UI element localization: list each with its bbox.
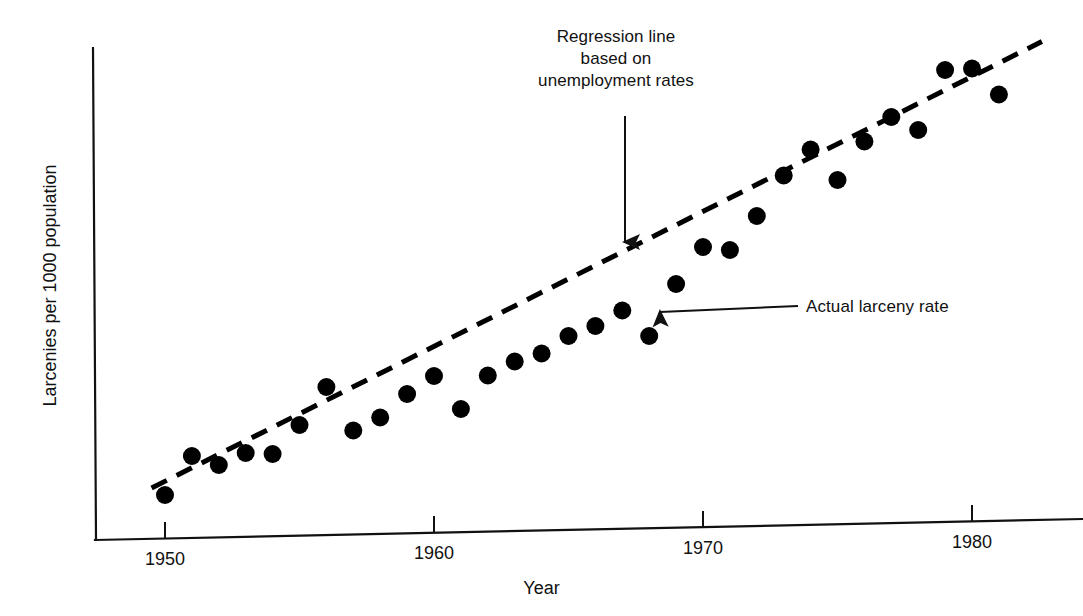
data-point: [694, 238, 712, 256]
x-tick-label-1960: 1960: [399, 543, 469, 564]
actual-larceny-annotation: Actual larceny rate: [806, 296, 949, 318]
x-axis-ticks: [165, 505, 972, 538]
data-point: [479, 367, 497, 385]
data-point: [936, 61, 954, 79]
data-point: [560, 327, 578, 345]
data-point: [398, 385, 416, 403]
data-point: [237, 444, 255, 462]
data-point: [533, 345, 551, 363]
data-point: [721, 241, 739, 259]
data-point: [882, 108, 900, 126]
data-point: [990, 86, 1008, 104]
data-point: [775, 167, 793, 185]
data-point: [425, 367, 443, 385]
data-point: [855, 133, 873, 151]
data-point: [156, 486, 174, 504]
x-tick-label-1950: 1950: [130, 549, 200, 570]
x-tick-label-1980: 1980: [937, 532, 1007, 553]
data-point: [183, 447, 201, 465]
regression-line: [152, 42, 1042, 489]
actual-annotation-arrow: [660, 306, 798, 312]
data-point: [613, 302, 631, 320]
chart-figure: Regression line based on unemployment ra…: [0, 0, 1083, 616]
regression-annotation-line-1: Regression line: [494, 26, 738, 48]
data-point: [344, 422, 362, 440]
data-point: [909, 121, 927, 139]
data-point: [829, 171, 847, 189]
data-point: [748, 207, 766, 225]
data-point: [210, 456, 228, 474]
y-axis-title: Larcenies per 1000 population: [40, 76, 61, 496]
axis-lines: [93, 48, 1083, 540]
data-point: [586, 317, 604, 335]
data-point-group: [156, 60, 1008, 505]
data-point: [506, 353, 524, 371]
x-axis-line: [95, 519, 1083, 540]
data-point: [371, 409, 389, 427]
data-point: [264, 445, 282, 463]
data-point: [452, 400, 470, 418]
x-tick-label-1970: 1970: [668, 538, 738, 559]
regression-line-annotation: Regression line based on unemployment ra…: [494, 26, 738, 92]
data-point: [317, 378, 335, 396]
data-point: [667, 275, 685, 293]
regression-annotation-line-2: based on: [494, 48, 738, 70]
x-axis-title: Year: [0, 578, 1083, 599]
regression-annotation-line-3: unemployment rates: [494, 70, 738, 92]
y-axis-line: [93, 48, 96, 540]
data-point: [802, 141, 820, 159]
data-point: [640, 327, 658, 345]
data-point: [963, 60, 981, 78]
data-point: [291, 416, 309, 434]
